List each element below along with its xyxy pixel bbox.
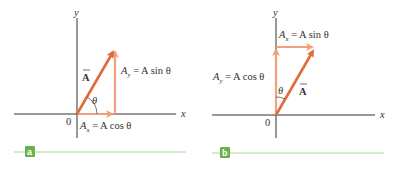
vector-a-label: A [299, 86, 307, 97]
angle-arc [276, 97, 285, 99]
origin-label: 0 [265, 117, 270, 128]
x-axis-label: x [379, 109, 385, 120]
ay-label: Ay = A sin θ [120, 65, 171, 79]
panel-b: x y 0 θ A Ax = A sin θ Ay = A cos θ b [212, 7, 385, 158]
vector-components-diagram: x y 0 θ A Ay = A sin θ Ax = A cos θ a x … [0, 0, 398, 172]
ax-label: Ax = A cos θ [79, 120, 131, 134]
y-axis-label: y [73, 7, 79, 18]
vector-a-arrow [276, 51, 313, 115]
x-axis-label: x [180, 108, 186, 119]
ax-label: Ax = A sin θ [278, 29, 329, 43]
y-axis-label: y [272, 7, 278, 18]
panel-a: x y 0 θ A Ay = A sin θ Ax = A cos θ a [14, 7, 186, 157]
origin-label: 0 [66, 116, 71, 127]
vector-a-label: A [82, 72, 90, 83]
angle-theta-label: θ [278, 85, 283, 96]
panel-badge-label: b [222, 148, 228, 158]
ay-label: Ay = A cos θ [212, 71, 264, 85]
angle-theta-label: θ [92, 95, 97, 106]
